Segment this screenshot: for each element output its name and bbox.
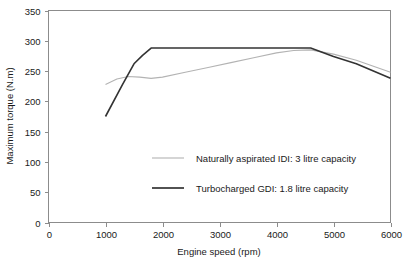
- x-tick-label: 3000: [210, 229, 231, 240]
- legend-label-turbocharged: Turbocharged GDI: 1.8 litre capacity: [196, 183, 348, 194]
- chart-canvas: 050100150200250300350 010002000300040005…: [0, 0, 412, 266]
- y-tick-label: 300: [25, 36, 41, 47]
- x-tick-label: 6000: [381, 229, 402, 240]
- y-tick-label: 100: [25, 157, 41, 168]
- y-axis-title: Maximum torque (N.m): [4, 67, 15, 164]
- x-axis-title: Engine speed (rpm): [177, 246, 260, 257]
- legend-label-naturally-aspirated: Naturally aspirated IDI: 3 litre capacit…: [196, 153, 356, 164]
- x-axis-ticks: 0100020003000400050006000: [47, 223, 402, 240]
- y-tick-label: 250: [25, 66, 41, 77]
- x-tick-label: 4000: [267, 229, 288, 240]
- x-tick-label: 5000: [324, 229, 345, 240]
- x-tick-label: 1000: [96, 229, 117, 240]
- torque-vs-speed-chart: 050100150200250300350 010002000300040005…: [0, 0, 412, 266]
- y-tick-label: 150: [25, 127, 41, 138]
- series-line-naturally-aspirated: [106, 50, 391, 85]
- series-group: [106, 48, 391, 116]
- y-tick-label: 200: [25, 96, 41, 107]
- x-tick-label: 0: [47, 229, 52, 240]
- y-axis-ticks: 050100150200250300350: [25, 6, 49, 229]
- legend: Naturally aspirated IDI: 3 litre capacit…: [152, 153, 356, 194]
- y-tick-label: 0: [35, 218, 40, 229]
- y-tick-label: 350: [25, 6, 41, 17]
- x-tick-label: 2000: [153, 229, 174, 240]
- y-tick-label: 50: [30, 187, 41, 198]
